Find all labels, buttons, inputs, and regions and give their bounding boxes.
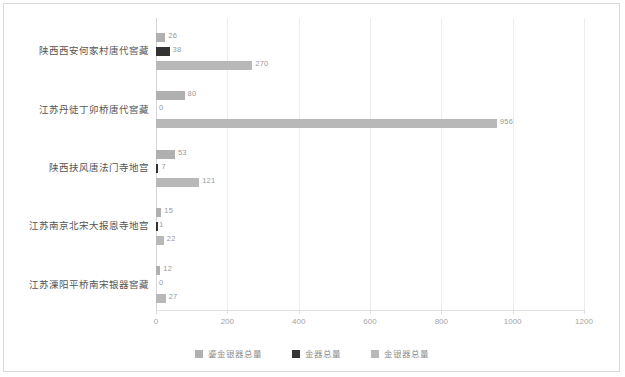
x-tick-label: 800: [435, 317, 448, 326]
bar-row: 121: [156, 178, 584, 187]
x-tick-label: 400: [292, 317, 305, 326]
category-label: 陕西西安何家村唐代窖藏: [39, 45, 149, 57]
bar-value-label: 956: [500, 117, 513, 127]
bar-value-label: 7: [161, 162, 165, 172]
x-tick-label: 1000: [504, 317, 522, 326]
bar-row: 0: [156, 280, 584, 289]
bar-value-label: 27: [169, 292, 178, 302]
legend-label: 金器总量: [305, 349, 341, 359]
bar-value-label: 1: [159, 220, 163, 230]
bar-value-label: 80: [188, 89, 197, 99]
x-tick-label: 200: [221, 317, 234, 326]
bar-row: 22: [156, 236, 584, 245]
gridline-1200: [584, 18, 585, 310]
bar[interactable]: [156, 222, 158, 231]
category-group: 陕西西安何家村唐代窖藏2638270: [156, 33, 584, 75]
legend-label: 鎏金银器总量: [208, 349, 262, 359]
bar-value-label: 38: [173, 45, 182, 55]
category-group: 江苏溧阳平桥南宋银器窖藏12027: [156, 266, 584, 308]
bar-row: 1: [156, 222, 584, 231]
bar-row: 80: [156, 91, 584, 100]
legend-swatch-icon: [195, 350, 203, 358]
x-tick: [227, 310, 228, 314]
legend-item[interactable]: 金银器总量: [371, 349, 429, 359]
x-tick-label: 0: [154, 317, 158, 326]
legend-item[interactable]: 鎏金银器总量: [195, 349, 262, 359]
bar-value-label: 121: [202, 176, 215, 186]
legend-swatch-icon: [292, 350, 300, 358]
plot-area: 陕西西安何家村唐代窖藏2638270江苏丹徒丁卯桥唐代窖藏800956陕西扶风唐…: [156, 18, 584, 310]
bar-value-label: 22: [167, 234, 176, 244]
bar-row: 7: [156, 164, 584, 173]
bar[interactable]: [156, 294, 166, 303]
x-tick: [299, 310, 300, 314]
x-tick: [513, 310, 514, 314]
x-tick-label: 1200: [575, 317, 593, 326]
bar[interactable]: [156, 119, 497, 128]
bar-value-label: 270: [255, 59, 268, 69]
category-group: 陕西扶风唐法门寺地宫537121: [156, 150, 584, 192]
bar-row: 38: [156, 47, 584, 56]
category-group: 江苏南京北宋大报恩寺地宫15122: [156, 208, 584, 250]
bar-value-label: 12: [163, 264, 172, 274]
bar[interactable]: [156, 236, 164, 245]
x-tick: [441, 310, 442, 314]
bar-row: 270: [156, 61, 584, 70]
bar-row: 12: [156, 266, 584, 275]
bar-value-label: 0: [159, 278, 163, 288]
x-axis: 020040060080010001200: [156, 310, 584, 334]
bar-row: 0: [156, 105, 584, 114]
x-tick: [156, 310, 157, 314]
bar-row: 53: [156, 150, 584, 159]
category-group: 江苏丹徒丁卯桥唐代窖藏800956: [156, 91, 584, 133]
bar[interactable]: [156, 33, 165, 42]
bar[interactable]: [156, 266, 160, 275]
bar-row: 956: [156, 119, 584, 128]
category-label: 江苏溧阳平桥南宋银器窖藏: [29, 279, 149, 291]
bar[interactable]: [156, 47, 170, 56]
bar[interactable]: [156, 208, 161, 217]
chart-legend: 鎏金银器总量金器总量金银器总量: [4, 349, 619, 359]
x-tick: [584, 310, 585, 314]
bar-value-label: 53: [178, 148, 187, 158]
bar-value-label: 26: [168, 31, 177, 41]
bar-value-label: 15: [164, 206, 173, 216]
x-tick: [370, 310, 371, 314]
bar[interactable]: [156, 150, 175, 159]
x-tick-label: 600: [363, 317, 376, 326]
legend-swatch-icon: [371, 350, 379, 358]
category-label: 江苏丹徒丁卯桥唐代窖藏: [39, 104, 149, 116]
bar[interactable]: [156, 164, 158, 173]
bar[interactable]: [156, 91, 185, 100]
chart-frame: 陕西西安何家村唐代窖藏2638270江苏丹徒丁卯桥唐代窖藏800956陕西扶风唐…: [3, 3, 620, 372]
bar-row: 26: [156, 33, 584, 42]
legend-item[interactable]: 金器总量: [292, 349, 341, 359]
category-label: 江苏南京北宋大报恩寺地宫: [29, 220, 149, 232]
category-label: 陕西扶风唐法门寺地宫: [49, 162, 149, 174]
bar-row: 27: [156, 294, 584, 303]
legend-label: 金银器总量: [384, 349, 429, 359]
bar-value-label: 0: [159, 103, 163, 113]
bar[interactable]: [156, 178, 199, 187]
bar-row: 15: [156, 208, 584, 217]
bar[interactable]: [156, 61, 252, 70]
